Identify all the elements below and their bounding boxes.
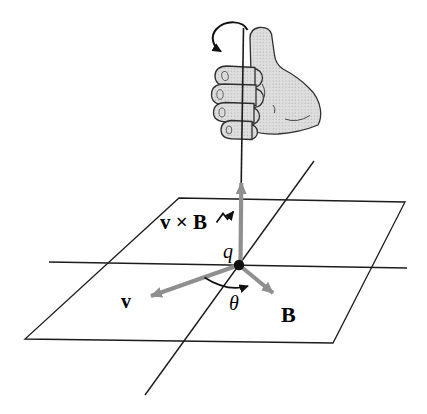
rotation-arrow-icon bbox=[213, 22, 248, 51]
angle-label: θ bbox=[229, 292, 239, 314]
right-hand-illustration bbox=[212, 27, 321, 139]
velocity-label: v bbox=[121, 290, 131, 312]
finger-ring bbox=[214, 103, 255, 123]
diagram-canvas: v × B q v B θ bbox=[0, 0, 427, 414]
velocity-vector-arrow bbox=[151, 265, 239, 296]
field-label: B bbox=[281, 302, 296, 327]
charge-label: q bbox=[223, 240, 233, 263]
right-hand-rule-figure: v × B q v B θ bbox=[0, 0, 427, 414]
plane-outline bbox=[25, 198, 405, 343]
finger-pinky bbox=[221, 121, 252, 140]
charge-dot bbox=[234, 260, 244, 270]
cross-product-vector-arrow bbox=[241, 183, 242, 264]
cross-product-label: v × B bbox=[160, 210, 207, 234]
label-pointer-squiggle-arrow bbox=[217, 212, 234, 223]
reference-line-diagonal bbox=[145, 161, 314, 395]
field-vector-arrow bbox=[239, 265, 273, 293]
